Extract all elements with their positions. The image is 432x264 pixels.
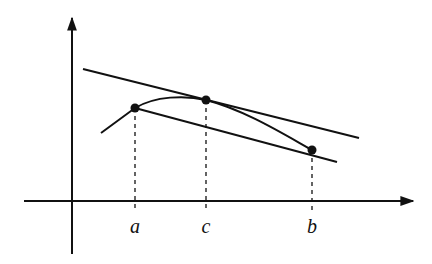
secant-line-ab bbox=[135, 108, 337, 162]
mean-value-theorem-diagram: a c b bbox=[0, 0, 432, 264]
tick-label-a: a bbox=[130, 216, 140, 236]
point-b-dot bbox=[308, 146, 317, 155]
point-c-dot bbox=[202, 96, 211, 105]
diagram-canvas bbox=[0, 0, 432, 264]
dashed-guide-lines bbox=[135, 100, 312, 212]
point-a-dot bbox=[131, 104, 140, 113]
tick-label-c: c bbox=[202, 216, 211, 236]
tangent-line-at-c bbox=[83, 69, 359, 138]
tick-label-b: b bbox=[307, 216, 317, 236]
